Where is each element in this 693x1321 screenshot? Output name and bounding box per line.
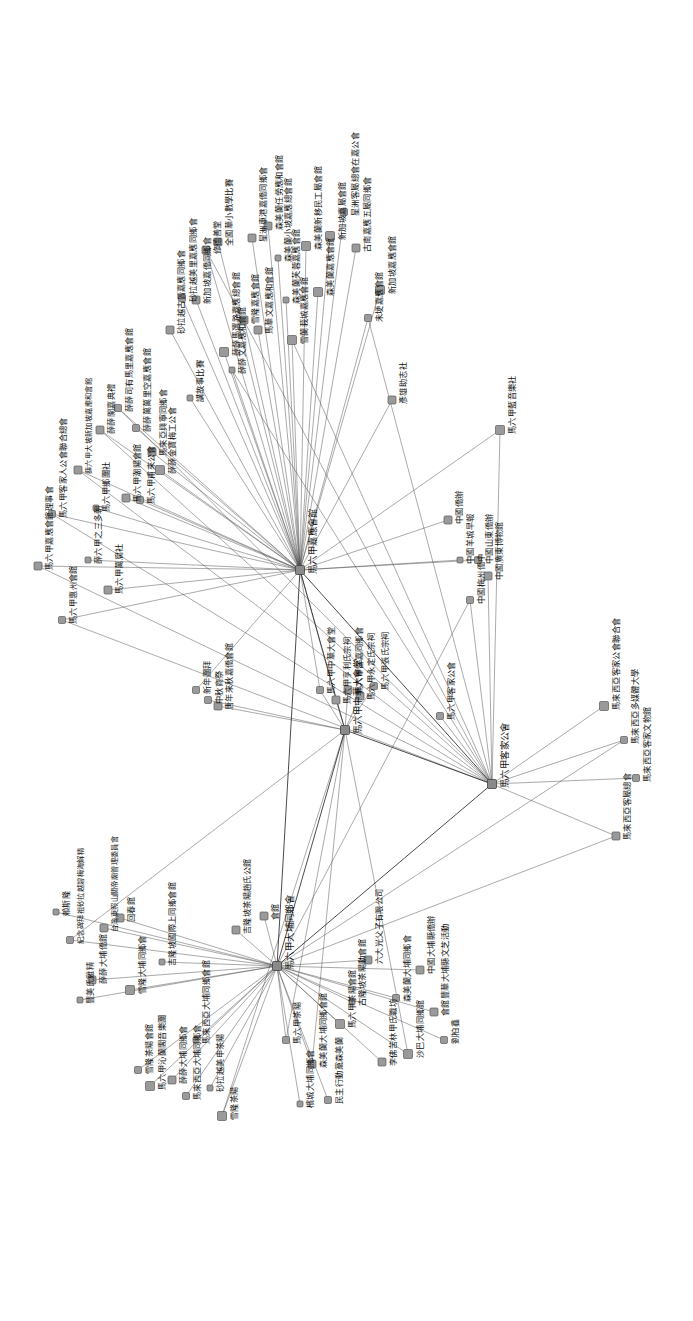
graph-node[interactable] [378, 1058, 386, 1066]
graph-node[interactable] [229, 367, 235, 373]
graph-node[interactable] [283, 1037, 290, 1044]
graph-node[interactable] [168, 1076, 176, 1084]
graph-node[interactable] [232, 926, 240, 934]
graph-node-label: 中秋商祭 [215, 670, 223, 704]
graph-node[interactable] [352, 244, 360, 252]
graph-edge [277, 966, 352, 1002]
graph-node[interactable] [457, 557, 463, 563]
graph-node[interactable] [187, 395, 193, 401]
graph-node-label: 薛薛文嘉應和會館 [238, 307, 246, 374]
graph-node[interactable] [621, 737, 628, 744]
graph-node[interactable] [288, 336, 297, 345]
graph-node-label: 馬來西亞大埔同鄉會館 [202, 960, 210, 1044]
graph-node[interactable] [218, 1112, 227, 1121]
graph-node-label: 回春館 [127, 897, 135, 922]
graph-edge [300, 560, 478, 570]
graph-edge [62, 620, 492, 784]
graph-node[interactable] [126, 986, 135, 995]
graph-node[interactable] [332, 696, 340, 704]
graph-node-label: 中國大埔縣僑辦 [427, 915, 435, 974]
graph-node[interactable] [283, 297, 289, 303]
graph-node-label: 劉柏鑫 [451, 1019, 459, 1044]
graph-node[interactable] [325, 1097, 332, 1104]
graph-node-label: 薛薛司有馬里嘉應會館 [125, 328, 133, 412]
graph-node[interactable] [437, 713, 444, 720]
graph-node[interactable] [205, 697, 212, 704]
graph-node[interactable] [275, 255, 281, 261]
graph-node[interactable] [183, 1093, 190, 1100]
graph-node[interactable] [193, 687, 200, 694]
graph-edge [492, 784, 616, 836]
graph-node[interactable] [441, 1037, 448, 1044]
graph-node[interactable] [317, 687, 324, 694]
graph-node[interactable] [612, 832, 620, 840]
graph-node[interactable] [388, 396, 396, 404]
graph-node[interactable] [133, 425, 140, 432]
graph-node[interactable] [600, 702, 609, 711]
graph-node[interactable] [297, 1101, 303, 1107]
graph-node[interactable] [254, 326, 262, 334]
graph-edge [278, 258, 300, 570]
graph-node-label: 沙巴大埔同鄉館 [416, 999, 424, 1058]
graph-node-label: 馬六甲沁蘭閣音樂團 [158, 1014, 166, 1090]
graph-edge [492, 740, 624, 784]
graph-hub-node[interactable] [341, 726, 350, 735]
graph-node[interactable] [314, 288, 323, 297]
graph-edge [108, 570, 300, 590]
graph-node-label: 賴斯隆 [62, 891, 70, 916]
graph-node-label: 會館豐華大埔縣文芝活動 [441, 924, 449, 1016]
graph-node[interactable] [100, 924, 108, 932]
graph-node-label: 馬來西亞大埔同鄉會 [193, 1024, 201, 1100]
graph-node[interactable] [633, 775, 640, 782]
graph-node-label: 新年團拜 [203, 660, 211, 694]
graph-node[interactable] [67, 937, 74, 944]
graph-node[interactable] [207, 1085, 213, 1091]
graph-node-label: 馬來亞興寧同鄉會 [159, 389, 167, 456]
graph-node[interactable] [96, 426, 104, 434]
graph-node[interactable] [467, 597, 474, 604]
graph-node[interactable] [336, 1020, 345, 1029]
graph-node-label: 李佛苦林甲氏職坊 [389, 999, 397, 1066]
graph-node[interactable] [496, 426, 505, 435]
graph-node-label: 森美蘭大埔同鄉會 [403, 935, 411, 1002]
graph-node-label: 森美蘭新移民工屬會館 [314, 166, 322, 250]
graph-node[interactable] [59, 617, 66, 624]
graph-node[interactable] [430, 1008, 438, 1016]
graph-node[interactable] [85, 557, 91, 563]
graph-node[interactable] [302, 242, 311, 251]
graph-node[interactable] [122, 494, 130, 502]
graph-node-label: 砂拉越古晉嘉應同鄉會 [177, 250, 185, 334]
graph-hub-node[interactable] [273, 962, 282, 971]
graph-hub-node[interactable] [296, 566, 305, 575]
graph-node-label: 吉隆坡茶陽趙氏公館 [243, 858, 251, 934]
graph-node-label: 民主行動黨森美蘭 [335, 1037, 343, 1104]
graph-node-label: 新加坡嘉應會館 [388, 235, 396, 294]
graph-node[interactable] [135, 1067, 142, 1074]
graph-node[interactable] [248, 234, 256, 242]
graph-node[interactable] [404, 1050, 413, 1059]
graph-hub-label: 馬六甲大埔同鄉會 [285, 895, 294, 970]
graph-node[interactable] [444, 516, 452, 524]
graph-node[interactable] [365, 315, 372, 322]
graph-node[interactable] [146, 1082, 155, 1091]
graph-node[interactable] [156, 466, 165, 475]
graph-node[interactable] [34, 562, 42, 570]
graph-node[interactable] [166, 326, 174, 334]
graph-node[interactable] [53, 909, 59, 915]
graph-node[interactable] [220, 348, 229, 357]
graph-node[interactable] [104, 586, 112, 594]
graph-hub-node[interactable] [488, 780, 497, 789]
graph-node-label: 馬來西亞客家文物館 [643, 706, 651, 782]
graph-node[interactable] [74, 466, 82, 474]
graph-node[interactable] [260, 912, 268, 920]
graph-node-label: 古南嘉應五屬同鄉會 [363, 176, 371, 252]
graph-node-label: 古隆坡茶陽動會館 [358, 939, 366, 1006]
graph-node-label: 中國廣東博物館 [495, 521, 503, 580]
graph-node[interactable] [77, 997, 83, 1003]
graph-node-label: 全國華小數學比賽 [225, 179, 233, 246]
graph-node-label: 馬六甲惠州會館 [69, 565, 77, 624]
graph-node[interactable] [416, 966, 424, 974]
graph-node-label: 未埂嘉應會館 [375, 272, 383, 322]
graph-node-label: 馬六甲茶陽會館 [348, 969, 356, 1028]
graph-node[interactable] [159, 959, 165, 965]
